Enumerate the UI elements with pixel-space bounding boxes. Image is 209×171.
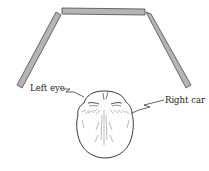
right-ear-leader bbox=[132, 100, 164, 113]
right-mirror bbox=[146, 12, 191, 88]
center-mirror bbox=[62, 8, 145, 15]
right-ear-label: Right car bbox=[165, 96, 205, 105]
left-eye-leader bbox=[64, 89, 84, 97]
left-mirror bbox=[17, 12, 61, 88]
left-eye-label: Left eye bbox=[30, 84, 65, 93]
head-illustration bbox=[77, 91, 134, 158]
